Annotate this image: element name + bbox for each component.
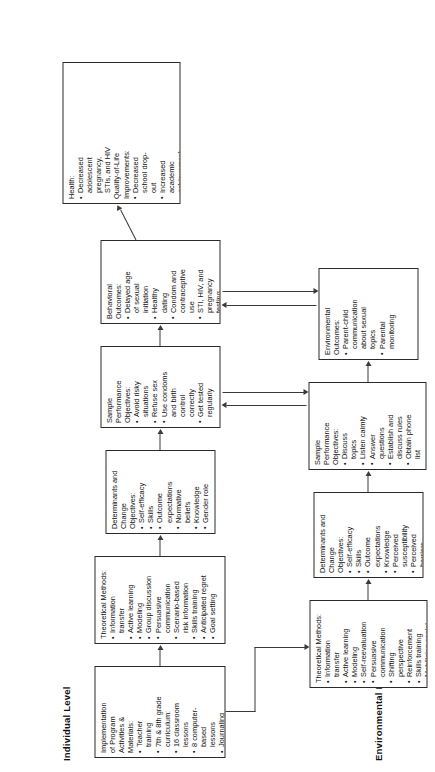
list-item: Delayed age of sexual initiation (122, 245, 149, 319)
list-item: Avoid risky situations (131, 351, 149, 423)
list-item: Discuss topics (339, 387, 357, 465)
list-item: Self-efficacy (136, 455, 145, 529)
box-quality-of-life-list: Decreased school drop- out Increased aca… (130, 67, 180, 199)
list-item: Mobilizing social support (422, 605, 427, 683)
list-item: Perceived susceptibility (390, 497, 408, 573)
box-environmental-outcomes-list: Parent-child communication about sexual … (340, 273, 395, 355)
list-item: Establish and discuss rules (385, 387, 403, 465)
list-item: Get tested regularly (195, 351, 213, 423)
logic-model-diagram: Individual Level Environmental Level Imp… (0, 0, 435, 772)
list-item: Obtain phone list (403, 387, 421, 465)
box-health-header: Health: (66, 67, 75, 199)
list-item: Journaling (216, 671, 225, 753)
box-determinants-individual-header: Determinants and Change Objectives: (109, 455, 136, 529)
list-item: Use condoms and birth control correctly (159, 351, 195, 423)
list-item: Decreased school drop- out (130, 67, 157, 199)
box-determinants-environmental-header: Determinants and Change Objectives: (317, 497, 344, 573)
list-item: Skills training (189, 561, 198, 639)
list-item: Parental monitoring (377, 273, 395, 355)
list-item: 16 classroom lessons (171, 671, 189, 753)
list-item: Skills (353, 497, 362, 573)
list-item: Information transfer (107, 561, 125, 639)
diagram-rotation-stage: Individual Level Environmental Level Imp… (0, 0, 435, 772)
box-performance-environmental-list: Discuss topics Listen calmly Answer ques… (339, 387, 421, 465)
box-determinants-environmental-list: Self-efficacy Skills Outcome expectation… (344, 497, 423, 573)
list-item: Normative beliefs (173, 455, 191, 529)
list-item: Self-reevaluation (358, 605, 367, 683)
box-performance-individual: Sample Performance Objectives: Avoid ris… (100, 346, 220, 428)
list-item: Persuasive communication (153, 561, 171, 639)
list-item: Information transfer (322, 605, 340, 683)
box-performance-individual-header: Sample Performance Objectives: (104, 351, 131, 423)
list-item: 7th & 8th grade curriculum: (153, 671, 171, 753)
list-item: Condom and contraceptive use (168, 245, 195, 319)
list-item: Self-efficacy (344, 497, 353, 573)
list-item: Shifting perspective (386, 605, 404, 683)
box-quality-of-life-subheader: Quality-of-Life Improvements: (111, 67, 129, 199)
box-implementation: Implementation of Program Activities & M… (94, 666, 225, 758)
list-item: 8 computer- based lessons (189, 671, 216, 753)
list-item: Skills (145, 455, 154, 529)
box-performance-environmental: Sample Performance Objectives: Discuss t… (308, 382, 426, 470)
box-environmental-outcomes: Environmental Outcomes: Parent-child com… (318, 268, 418, 360)
list-item: Group discussion (143, 561, 152, 639)
box-methods-environmental-header: Theoretical Methods: (313, 605, 322, 683)
list-item: Persuasive communication (368, 605, 386, 683)
box-determinants-environmental: Determinants and Change Objectives: Self… (313, 492, 423, 578)
box-behavioral-outcomes: Behavioral Outcomes: Delayed age of sexu… (100, 240, 220, 324)
box-health-quality-of-life: Health: Decreased adolescent pregnancy, … (62, 62, 180, 204)
list-item: Active learning (125, 561, 134, 639)
box-determinants-individual-list: Self-efficacy Skills Outcome expectation… (136, 455, 209, 529)
list-item: Answer questions (367, 387, 385, 465)
box-performance-individual-list: Avoid risky situations Refuse sex Use co… (131, 351, 213, 423)
box-methods-individual: Theoretical Methods: Information transfe… (94, 556, 225, 644)
list-item: Outcome expectations (154, 455, 172, 529)
list-item: Decreased adolescent pregnancy, STIs, an… (75, 67, 111, 199)
list-item: Listen calmly (357, 387, 366, 465)
list-item: Reinforcement (404, 605, 413, 683)
box-methods-environmental-list: Information transfer Active learning Mod… (322, 605, 427, 683)
list-item: Knowledge (191, 455, 200, 529)
box-methods-individual-header: Theoretical Methods: (98, 561, 107, 639)
box-implementation-header: Implementation of Program Activities & M… (98, 671, 134, 753)
list-item: Teacher training (134, 671, 152, 753)
list-item: Anticipated regret (198, 561, 207, 639)
box-methods-environmental: Theoretical Methods: Information transfe… (309, 600, 427, 688)
list-item: Refuse sex (149, 351, 158, 423)
list-item: Healthy dating (149, 245, 167, 319)
box-performance-environmental-header: Sample Performance Objectives: (312, 387, 339, 465)
box-environmental-outcomes-header: Environmental Outcomes: (322, 273, 340, 355)
box-implementation-list: Teacher training 7th & 8th grade curricu… (134, 671, 225, 753)
box-determinants-individual: Determinants and Change Objectives: Self… (105, 450, 215, 534)
box-health-list: Decreased adolescent pregnancy, STIs, an… (75, 67, 111, 199)
list-item: Skills training (413, 605, 422, 683)
list-item: Active learning (340, 605, 349, 683)
box-behavioral-outcomes-list: Delayed age of sexual initiation Healthy… (122, 245, 220, 319)
list-item: Perceived barriers (408, 497, 423, 573)
level-label-individual: Individual Level (60, 687, 71, 761)
list-item: Goal setting (207, 561, 216, 639)
box-behavioral-outcomes-header: Behavioral Outcomes: (104, 245, 122, 319)
list-item: Outcome expectations (362, 497, 380, 573)
list-item: Gender role (200, 455, 209, 529)
list-item: Knowledge (381, 497, 390, 573)
list-item: STI, HIV, and pregnancy testing (195, 245, 220, 319)
list-item: Modeling (349, 605, 358, 683)
list-item: Parent-child communication about sexual … (340, 273, 376, 355)
list-item: Increased academic achievement (157, 67, 180, 199)
list-item: Scenario-based risk information (171, 561, 189, 639)
box-methods-individual-list: Information transfer Active learning Mod… (107, 561, 216, 639)
list-item: Modeling (134, 561, 143, 639)
